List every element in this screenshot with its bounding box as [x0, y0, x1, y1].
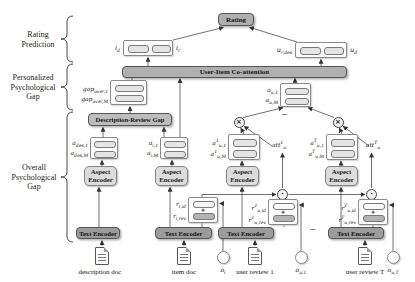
- text-encoder-item: Text Encoder: [155, 227, 212, 239]
- dot-node-reviewT: ·: [366, 189, 377, 200]
- section-label-personalized-gap: Personalized Psychological Gap: [4, 73, 62, 102]
- aspect-encoder-item: Aspect Encoder: [155, 166, 188, 186]
- dot-node-review1: ·: [277, 189, 288, 200]
- rating-box: Rating: [218, 13, 254, 26]
- label-i-r: ir: [176, 44, 207, 55]
- embedding-cell: [331, 150, 355, 158]
- item-representation-group: +: [188, 197, 218, 223]
- embedding-cell: [233, 150, 257, 158]
- user-coattention-output-group: [295, 42, 347, 58]
- item-coattention-output-group: [123, 40, 173, 56]
- gap-over-group: [110, 80, 147, 105]
- aspect-encoder-review1: Aspect Encoder: [226, 166, 259, 186]
- reviewT-id-circle: [387, 251, 400, 264]
- doc-label-review1: user review 1: [215, 268, 295, 276]
- description-aspect-group: [90, 137, 118, 159]
- text-encoder-description: Text Encoder: [76, 227, 120, 239]
- label-u-d: ud: [350, 46, 381, 57]
- review-embedding-cell: [273, 215, 295, 222]
- reviewT-aspect-group: [326, 134, 358, 160]
- user-item-coattention-bar: User-Item Co-attention: [122, 66, 347, 78]
- label-r-i-id: ri,id: [152, 200, 186, 211]
- page-fold: [257, 247, 262, 252]
- embedding-cell: [300, 47, 321, 55]
- item-aspect-group: [160, 137, 188, 159]
- item-id-circle: [217, 251, 230, 264]
- reviewT-representation-group: +: [358, 199, 388, 225]
- label-a-i-M: ai,M: [126, 149, 158, 160]
- user-aspect-group: [280, 83, 311, 107]
- embedding-cell: [324, 47, 344, 55]
- page-fold: [367, 247, 372, 252]
- document-icon-reviewT: [358, 247, 372, 265]
- section-label-rating-prediction: Rating Prediction: [14, 30, 62, 49]
- review1-aspect-group: [228, 134, 260, 160]
- embedding-cell: [128, 45, 149, 53]
- embedding-cell: [285, 98, 309, 106]
- ellipsis-aspects: –: [276, 109, 293, 118]
- document-icon-item: [177, 247, 191, 265]
- embedding-cell: [152, 45, 171, 53]
- brace-overall-gap: [61, 112, 73, 242]
- aspect-encoder-description: Aspect Encoder: [84, 166, 117, 186]
- embedding-cell: [164, 151, 186, 158]
- multiply-node-reviewT: ×: [333, 117, 344, 128]
- embedding-cell: [285, 88, 309, 96]
- description-review-gap-box: Description-Review Gap: [88, 113, 172, 126]
- embedding-cell: [164, 141, 186, 148]
- label-gap-over-M: gapover,M: [68, 95, 108, 106]
- label-i-d: id: [89, 44, 120, 55]
- text-encoder-reviewT: Text Encoder: [328, 227, 384, 239]
- aspect-encoder-reviewT: Aspect Encoder: [325, 166, 358, 186]
- doc-label-description: description doc: [60, 268, 140, 276]
- label-a1-u-M: a1u,M: [192, 148, 226, 161]
- embedding-cell: [94, 151, 116, 158]
- review-embedding-cell: [193, 213, 215, 220]
- ellipsis-reviews: –: [305, 224, 321, 233]
- embedding-cell: [115, 85, 144, 93]
- section-braces: [61, 16, 73, 242]
- embedding-cell: [331, 139, 355, 147]
- label-r-i-rev: ri,rev: [152, 212, 186, 223]
- label-rT-u-rev: rTu,rev: [321, 214, 356, 227]
- review1-id-circle: [295, 251, 308, 264]
- page-fold: [104, 247, 109, 252]
- text-encoder-review1: Text Encoder: [218, 227, 274, 239]
- architecture-diagram: Rating Prediction Personalized Psycholog…: [0, 0, 415, 282]
- doc-label-item: item doc: [144, 268, 224, 276]
- embedding-cell: [115, 95, 144, 103]
- document-icon-review1: [248, 247, 262, 265]
- document-icon-description: [95, 247, 109, 265]
- multiply-node-review1: ×: [234, 117, 245, 128]
- label-a-des-M: ades,M: [54, 149, 88, 160]
- brace-rating-prediction: [61, 16, 73, 62]
- label-u-r-des: ur,des: [251, 46, 292, 57]
- label-a-u-M: au,M: [246, 96, 278, 107]
- section-label-overall-gap: Overall Psychological Gap: [6, 163, 62, 192]
- label-r1-u-rev: r1u,rev: [231, 214, 266, 227]
- review-embedding-cell: [363, 215, 385, 222]
- page-fold: [186, 247, 191, 252]
- review1-representation-group: +: [268, 199, 298, 225]
- embedding-cell: [233, 139, 257, 147]
- label-aT-u-M: aTu,M: [290, 148, 324, 161]
- embedding-cell: [94, 141, 116, 148]
- doc-label-reviewT: user review T: [325, 268, 405, 276]
- label-attT-u: attTu: [357, 139, 389, 152]
